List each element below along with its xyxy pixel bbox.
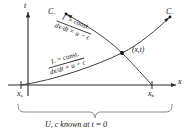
- tick-label-xb: xb: [148, 90, 154, 99]
- characteristics-figure: t x xa xb C− C+ (x,t) I− = const. dx/dt …: [0, 0, 190, 135]
- tick-label-xa: xa: [17, 90, 23, 99]
- figure-vector-graphics: [0, 0, 190, 135]
- domain-brace: [18, 104, 172, 118]
- c-minus-curve-subscript: −: [53, 11, 56, 16]
- c-plus-characteristic: [21, 17, 170, 85]
- c-minus-curve-label: C−: [48, 8, 56, 17]
- initial-data-caption: U, c known at t = 0: [45, 121, 107, 129]
- intersection-point-dot: [120, 51, 124, 55]
- intersection-point-label: (x,t): [132, 46, 144, 54]
- tick-label-xb-subscript: b: [152, 93, 154, 98]
- c-plus-curve-subscript: +: [171, 11, 174, 16]
- c-plus-curve-label: C+: [166, 8, 174, 17]
- t-axis-label: t: [24, 2, 26, 10]
- x-axis-label: x: [178, 78, 182, 86]
- tick-label-xa-subscript: a: [21, 93, 23, 98]
